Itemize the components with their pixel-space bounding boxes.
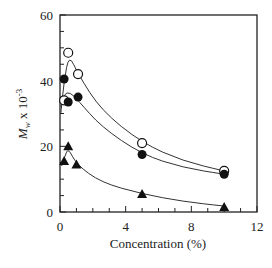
open-circle-point <box>138 139 147 148</box>
open-circle-point <box>64 48 73 57</box>
triangle-point <box>71 159 81 168</box>
y-tick-label: 20 <box>40 139 53 154</box>
filled-circle-point <box>60 75 69 84</box>
open-circle-point <box>74 70 83 79</box>
filled-circle-point <box>220 170 229 179</box>
data-points <box>59 48 229 211</box>
fit-curves <box>61 60 224 206</box>
x-tick-label: 0 <box>57 219 64 234</box>
x-axis-label: Concentration (%) <box>110 236 206 251</box>
triangle-point <box>219 202 229 211</box>
triangle-point <box>137 189 147 198</box>
x-tick-label: 12 <box>251 219 264 234</box>
y-tick-label: 0 <box>47 205 54 220</box>
plot-frame: 048120204060 <box>40 8 264 234</box>
filled-circle-point <box>138 150 147 159</box>
y-tick-label: 40 <box>40 74 53 89</box>
y-axis-label: Mw x 10-3 <box>14 88 32 140</box>
chart: 048120204060 Concentration (%) Mw x 10-3 <box>0 0 272 268</box>
x-tick-label: 4 <box>122 219 129 234</box>
y-tick-label: 60 <box>40 8 53 23</box>
x-tick-label: 8 <box>188 219 195 234</box>
filled-circle-point <box>74 93 83 102</box>
filled-circle-point <box>64 98 73 107</box>
